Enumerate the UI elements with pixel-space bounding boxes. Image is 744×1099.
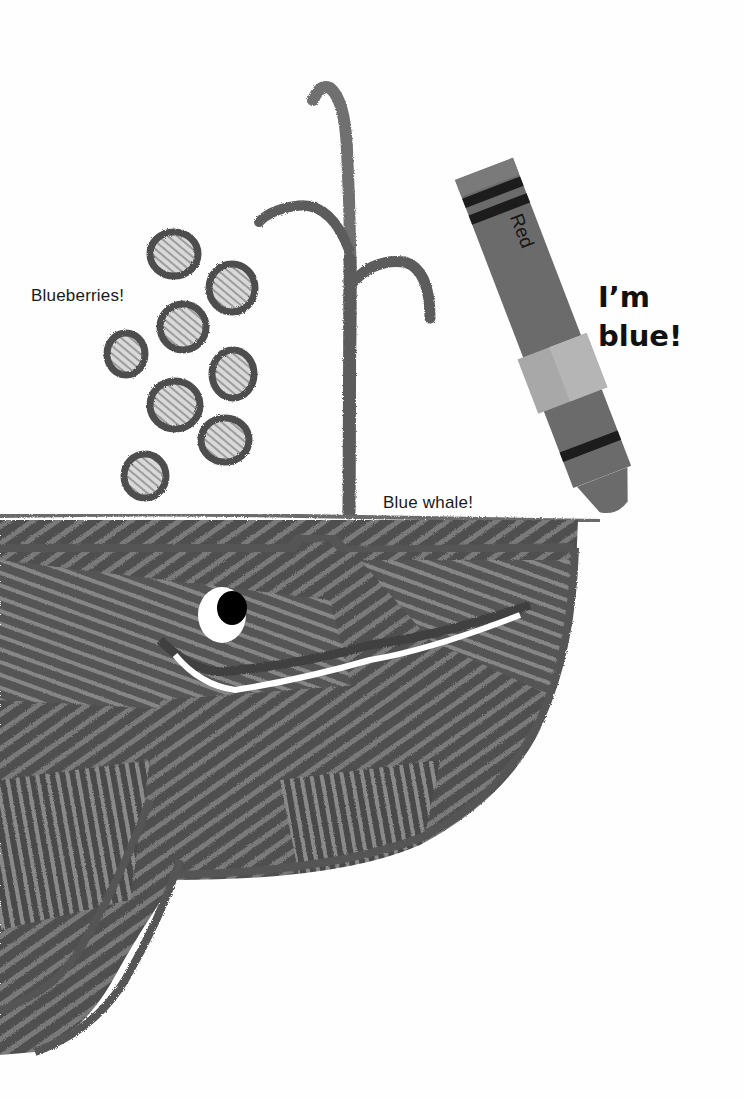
blueberry <box>201 418 249 462</box>
speech-text: I’m blue! <box>598 278 682 356</box>
plant-left-leaf <box>259 205 349 250</box>
speech-line-2: blue! <box>598 317 682 356</box>
blueberry <box>209 264 255 312</box>
speech-line-1: I’m <box>598 278 682 317</box>
blueberries-label: Blueberries! <box>31 286 124 306</box>
blueberry <box>124 454 166 498</box>
plant-right-leaf <box>353 261 430 318</box>
book-page: Red Blueberries! Blue whale! I’m blue! <box>0 0 744 1099</box>
blueberry <box>212 350 254 398</box>
blue-whale-label: Blue whale! <box>383 493 473 513</box>
whale-eye-pupil <box>217 591 247 625</box>
blueberries-group <box>107 232 255 498</box>
blueberry <box>107 333 145 375</box>
plant-drawing <box>259 87 430 513</box>
blueberry <box>160 304 206 350</box>
illustration: Red <box>0 0 744 1099</box>
plant-stem-lower <box>349 260 350 513</box>
blueberry <box>150 381 200 429</box>
blueberry <box>150 232 198 276</box>
whale-drawing <box>0 520 600 1080</box>
